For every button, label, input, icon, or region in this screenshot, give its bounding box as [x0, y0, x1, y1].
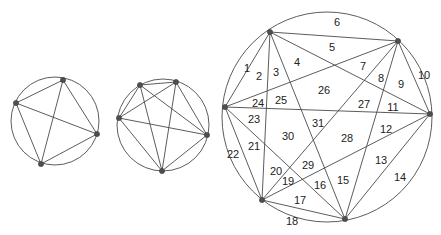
chord-w1-w3 — [119, 85, 140, 118]
vertex-point-w1 — [137, 82, 142, 87]
region-label-7: 7 — [360, 60, 366, 72]
vertex-point-w5 — [159, 168, 164, 173]
region-label-18: 18 — [286, 215, 298, 227]
vertex-point-v4 — [38, 161, 43, 166]
region-label-11: 11 — [387, 101, 398, 113]
region-label-28: 28 — [341, 132, 353, 144]
chord-w3-w4 — [119, 118, 207, 135]
chord-v2-v4 — [16, 103, 41, 164]
chord-v1-v2 — [16, 80, 63, 103]
region-label-12: 12 — [380, 123, 392, 135]
vertex-point-v3 — [94, 131, 99, 136]
region-label-29: 29 — [302, 159, 314, 171]
region-label-14: 14 — [394, 171, 406, 183]
vertex-point-v2 — [13, 100, 18, 105]
chord-u1-u4 — [270, 32, 430, 114]
vertex-point-u1 — [267, 29, 272, 34]
vertex-point-v1 — [60, 77, 65, 82]
vertex-point-u2 — [395, 38, 400, 43]
region-label-15: 15 — [337, 174, 349, 186]
region-label-31: 31 — [312, 117, 324, 129]
circle-division-figure: 1234567891011121314151617181920212223242… — [0, 0, 441, 235]
chord-w2-w4 — [176, 82, 207, 135]
region-label-6: 6 — [334, 16, 340, 28]
vertex-point-u3 — [222, 104, 227, 109]
edge-group — [225, 32, 430, 219]
region-label-24: 24 — [252, 97, 264, 109]
vertex-point-w2 — [173, 79, 178, 84]
region-label-26: 26 — [318, 84, 330, 96]
vertex-point-w4 — [204, 132, 209, 137]
region-label-20: 20 — [270, 165, 282, 177]
chord-w1-w4 — [140, 85, 207, 135]
region-label-25: 25 — [275, 94, 287, 106]
region-label-27: 27 — [358, 98, 370, 110]
region-label-22: 22 — [227, 148, 239, 160]
region-label-5: 5 — [329, 41, 335, 53]
chord-v1-v4 — [41, 80, 63, 164]
region-label-13: 13 — [375, 154, 387, 166]
region-label-19: 19 — [282, 175, 294, 187]
vertex-point-u4 — [427, 111, 432, 116]
region-label-9: 9 — [398, 78, 404, 90]
region-label-3: 3 — [273, 66, 279, 78]
edge-group — [119, 82, 207, 171]
region-label-2: 2 — [256, 70, 262, 82]
vertex-point-u5 — [259, 197, 264, 202]
region-label-23: 23 — [248, 113, 260, 125]
region-label-21: 21 — [248, 140, 260, 152]
region-label-30: 30 — [282, 130, 294, 142]
region-label-4: 4 — [294, 56, 300, 68]
region-label-17: 17 — [294, 194, 306, 206]
edge-group — [16, 80, 97, 164]
chord-u1-u2 — [270, 32, 398, 41]
chord-u1-u5 — [262, 32, 270, 200]
chord-u1-u6 — [270, 32, 345, 219]
diagram-5-points — [116, 79, 209, 174]
region-label-8: 8 — [378, 72, 384, 84]
chord-v2-v3 — [16, 103, 97, 134]
diagram-4-points — [11, 77, 100, 167]
region-label-1: 1 — [244, 62, 250, 74]
diagram-6-points: 1234567891011121314151617181920212223242… — [222, 12, 433, 227]
vertex-point-u6 — [342, 216, 347, 221]
region-label-10: 10 — [418, 69, 430, 81]
vertex-point-w3 — [116, 115, 121, 120]
region-label-16: 16 — [314, 179, 326, 191]
chord-v1-v3 — [63, 80, 97, 134]
circle-outline — [11, 77, 99, 165]
circle-outline — [117, 79, 209, 171]
